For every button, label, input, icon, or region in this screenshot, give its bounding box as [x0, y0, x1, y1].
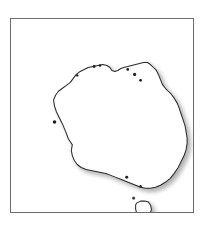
- coastal-mark-shark-bay: [53, 120, 57, 124]
- map-border: [10, 18, 194, 213]
- coastal-mark-port-phillip: [139, 185, 141, 187]
- australia-mainland-fill: [54, 63, 188, 189]
- offshore-islet-layer: [133, 197, 135, 199]
- coastal-mark-arnhem-a: [93, 65, 96, 68]
- coastal-mark-gulf-b: [133, 73, 136, 76]
- figure-root: Australia outline map: [0, 0, 207, 229]
- coastal-mark-gulf-a: [126, 68, 129, 71]
- offshore-islet-north-icon: [133, 197, 135, 199]
- coastal-mark-gulf-c: [139, 79, 142, 82]
- coastal-mark-arnhem-b: [99, 64, 102, 67]
- coastal-mark-kimberley: [76, 74, 78, 76]
- coastal-mark-spencer-gulf: [125, 176, 128, 179]
- map-canvas: [11, 19, 193, 212]
- figure-title: Australia outline map: [0, 21, 1, 22]
- landmass-fill-layer: [54, 63, 188, 212]
